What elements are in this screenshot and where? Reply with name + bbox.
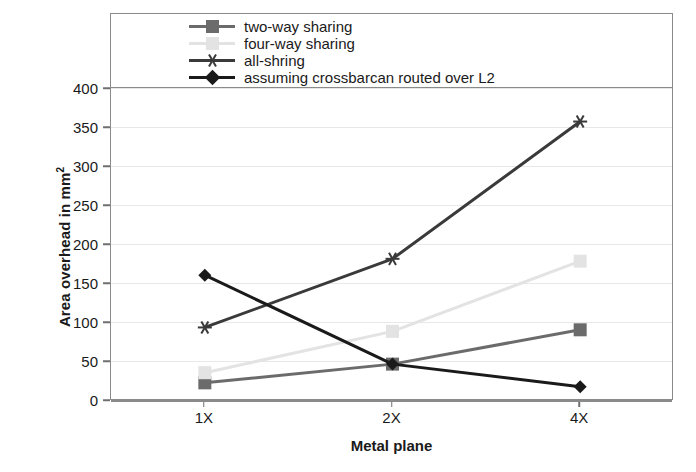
y-axis-tick-mark (103, 282, 110, 284)
diamond-marker (574, 380, 587, 393)
legend-item[interactable]: assuming crossbarcan routed over L2 (189, 69, 495, 86)
legend-swatch (189, 69, 235, 86)
y-axis-tick-label: 50 (52, 353, 98, 370)
legend: two-way sharingfour-way sharingall-shrin… (110, 13, 673, 88)
y-axis-tick-mark (103, 360, 110, 362)
star-marker (205, 54, 219, 66)
legend-item[interactable]: four-way sharing (189, 35, 495, 52)
x-axis-tick-label: 2X (382, 409, 400, 426)
y-axis-tick-label: 400 (52, 80, 98, 97)
square-marker (574, 255, 587, 268)
legend-star-icon (205, 53, 220, 68)
legend-label: four-way sharing (244, 35, 355, 52)
y-axis-tick-label: 300 (52, 158, 98, 175)
series-line (205, 261, 580, 373)
y-axis-tick-mark (103, 165, 110, 167)
x-axis-tick-label: 1X (195, 409, 213, 426)
legend-label: two-way sharing (244, 18, 352, 35)
legend-entries: two-way sharingfour-way sharingall-shrin… (189, 18, 495, 86)
legend-label: all-shring (244, 52, 305, 69)
series-line (205, 122, 580, 328)
legend-swatch (189, 35, 235, 52)
star-marker (198, 321, 212, 333)
y-axis-tick-mark (103, 126, 110, 128)
legend-diamond-icon (204, 70, 220, 86)
y-axis-tick-label: 350 (52, 119, 98, 136)
y-axis-tick-label: 150 (52, 275, 98, 292)
y-axis-tick-label: 200 (52, 236, 98, 253)
plot-inner (111, 88, 672, 399)
y-axis-tick-label: 0 (52, 392, 98, 409)
square-marker (198, 366, 211, 379)
y-axis-tick-mark (103, 399, 110, 401)
y-axis-tick-mark (103, 87, 110, 89)
series-layer (111, 88, 674, 400)
y-axis-tick-label: 250 (52, 197, 98, 214)
legend-square-icon (206, 20, 219, 33)
line-chart: Area overhead in mm2 Metal plane 4003503… (0, 0, 696, 472)
y-axis-tick-mark (103, 204, 110, 206)
square-marker (386, 325, 399, 338)
legend-label: assuming crossbarcan routed over L2 (244, 69, 495, 86)
legend-square-icon (206, 37, 219, 50)
legend-item[interactable]: two-way sharing (189, 18, 495, 35)
x-axis-tick-label: 4X (570, 409, 588, 426)
gridline (111, 400, 672, 402)
diamond-marker (198, 269, 211, 282)
y-axis-tick-label: 100 (52, 314, 98, 331)
y-axis-tick-mark (103, 243, 110, 245)
x-axis-title: Metal plane (110, 437, 673, 454)
legend-item[interactable]: all-shring (189, 52, 495, 69)
plot-area (110, 88, 673, 400)
legend-swatch (189, 18, 235, 35)
legend-swatch (189, 52, 235, 69)
square-marker (574, 323, 587, 336)
y-axis-tick-mark (103, 321, 110, 323)
